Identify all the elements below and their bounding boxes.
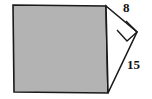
- geometry-figure: 8 15: [0, 0, 152, 99]
- dimension-label-short-leg: 8: [123, 1, 130, 14]
- shaded-square-shape: [13, 5, 108, 93]
- right-triangle-shape: [106, 6, 137, 93]
- dimension-label-long-leg: 15: [127, 58, 140, 71]
